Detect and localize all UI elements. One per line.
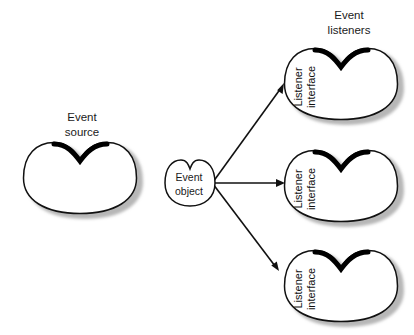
event-model-diagram: Event source Event listeners Listener in…: [0, 0, 414, 335]
event-source-label-line2: source: [65, 126, 100, 138]
event-object-label-line1: Event: [176, 171, 203, 183]
diagram-canvas: Event source Event listeners Listener in…: [0, 0, 414, 335]
arrow-to-listener-2: [213, 179, 285, 187]
listener-interface-1-text: Listener interface: [292, 66, 317, 108]
listener-interface-1-label-line1: Listener: [292, 67, 304, 106]
event-object-label-line2: object: [175, 185, 203, 197]
arrows-group: [213, 83, 285, 271]
listener-interface-1-group: Listener interface: [285, 49, 403, 124]
arrow-to-listener-1: [213, 83, 284, 182]
arrow-to-listener-3: [213, 184, 279, 271]
event-source-label-line1: Event: [67, 111, 97, 123]
event-object-group: Event object: [165, 160, 215, 206]
event-listeners-label-line1: Event: [334, 9, 364, 21]
event-object-shape: [165, 160, 215, 206]
listener-interface-3-text: Listener interface: [292, 268, 317, 310]
listener-interface-1-label-line2: interface: [305, 66, 317, 108]
listener-interface-2-label-line1: Listener: [292, 169, 304, 208]
listener-interface-3-label-line2: interface: [305, 268, 317, 310]
event-listeners-label-line2: listeners: [328, 24, 371, 36]
event-source-shape: [24, 143, 137, 214]
listener-interface-3-group: Listener interface: [285, 251, 403, 326]
listener-interface-2-text: Listener interface: [292, 168, 317, 210]
listener-interface-3-label-line1: Listener: [292, 269, 304, 308]
event-source-group: [24, 143, 142, 218]
listener-interface-2-label-line2: interface: [305, 168, 317, 210]
listener-interface-2-group: Listener interface: [285, 151, 403, 226]
